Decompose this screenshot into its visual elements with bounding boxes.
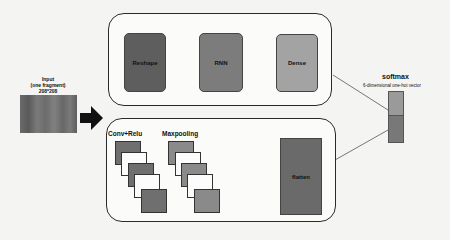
softmax-subtitle: 6-dimensional one-hot vector (363, 83, 421, 88)
flatten-label: flatten (292, 174, 310, 180)
input-image (20, 95, 77, 133)
pool-feature-map (194, 189, 220, 213)
dense-block: Dense (276, 34, 318, 92)
reshape-label: Reshape (132, 60, 157, 66)
softmax-vector-top (388, 91, 404, 117)
conv-feature-map (141, 189, 167, 213)
conv-relu-label: Conv+Relu (108, 130, 142, 137)
rnn-label: RNN (215, 60, 228, 66)
softmax-title: softmax (382, 73, 409, 80)
arrow-icon (80, 106, 103, 130)
input-size: 208*208 (34, 88, 62, 94)
softmax-vector-bottom (388, 115, 404, 143)
reshape-block: Reshape (124, 33, 166, 92)
maxpooling-label: Maxpooling (162, 130, 198, 137)
flatten-block: flatten (280, 138, 322, 215)
dense-label: Dense (288, 60, 306, 66)
rnn-block: RNN (199, 33, 243, 92)
